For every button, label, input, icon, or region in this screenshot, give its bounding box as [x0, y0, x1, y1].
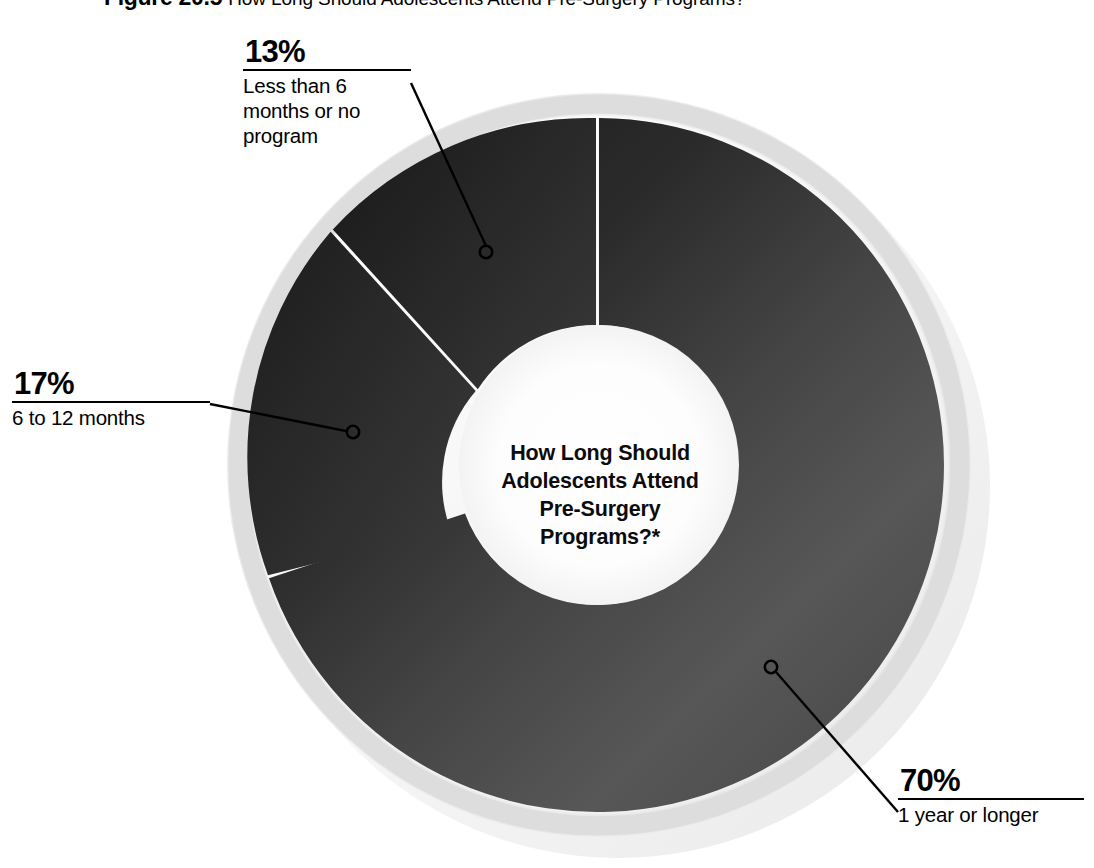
- figure-container: Figure 20.5How Long Should Adolescents A…: [0, 0, 1094, 868]
- donut-chart: [0, 0, 1094, 868]
- callout-percent: 13%: [243, 36, 411, 69]
- callout-1-year-or-longer[interactable]: 70% 1 year or longer: [898, 765, 1084, 827]
- callout-percent: 70%: [898, 765, 1084, 798]
- callout-description: 1 year or longer: [898, 800, 1084, 827]
- callout-description: Less than 6 months or no program: [243, 71, 411, 148]
- callout-less-than-6-months[interactable]: 13% Less than 6 months or no program: [243, 36, 411, 148]
- callout-6-to-12-months[interactable]: 17% 6 to 12 months: [12, 368, 210, 430]
- callout-description: 6 to 12 months: [12, 403, 210, 430]
- donut-hole: [459, 325, 739, 605]
- callout-percent: 17%: [12, 368, 210, 401]
